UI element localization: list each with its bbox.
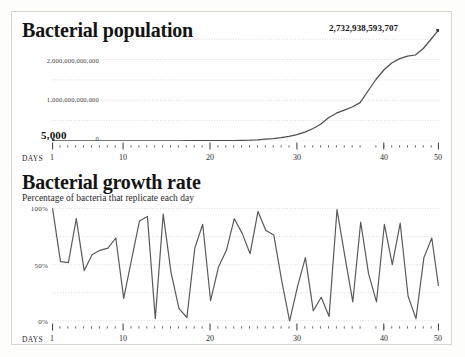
chart-1-xtick-4: 40 [380,153,388,162]
chart-2-xtick-3: 30 [293,334,301,343]
chart-bacterial-population: Bacterial population 2,000,000,000,000 1… [11,11,452,171]
chart-1-svg [52,29,439,141]
chart-2-ytick-1: 50% [11,262,48,270]
chart-1-start-callout: 5,000 [41,129,67,141]
chart-2-title: Bacterial growth rate [22,172,201,192]
chart-1-plot-area [52,29,439,141]
chart-1-minor-ticks [60,145,431,147]
chart-1-xtick-0: 1 [50,153,54,162]
chart-1-end-marker [436,29,439,32]
chart-2-plot-area [52,208,439,322]
chart-2-gridlines [52,209,439,321]
chart-1-major-ticks [53,143,439,150]
chart-2-major-ticks [53,324,439,331]
chart-2-subtitle: Percentage of bacteria that replicate ea… [22,194,194,204]
chart-1-x-axis-svg [52,141,439,152]
chart-2-xtick-4: 40 [380,334,388,343]
chart-2-minor-ticks [60,326,431,328]
chart-2-axis-name: DAYS [22,335,43,344]
chart-2-xtick-1: 10 [119,334,127,343]
chart-1-xtick-2: 20 [206,153,214,162]
chart-bacterial-growth-rate: Bacterial growth rate Percentage of bact… [11,167,452,345]
chart-2-x-axis [52,322,439,333]
infographic-page: Bacterial population 2,000,000,000,000 1… [0,0,465,357]
chart-1-gridlines [52,39,439,141]
chart-2-xtick-0: 1 [50,334,54,343]
chart-1-xtick-1: 10 [119,153,127,162]
chart-1-axis-name: DAYS [22,154,43,163]
chart-1-xtick-5: 50 [434,153,442,162]
chart-2-svg [52,208,439,322]
chart-2-ytick-2: 0% [11,318,48,326]
chart-2-data-line [53,209,439,321]
chart-2-ytick-0: 100% [11,205,48,213]
chart-2-x-axis-svg [52,322,439,333]
chart-2-xtick-2: 20 [206,334,214,343]
chart-1-data-line [52,30,439,141]
chart-1-end-callout: 2,732,938,593,707 [329,23,398,33]
chart-2-xtick-5: 50 [434,334,442,343]
chart-1-xtick-3: 30 [293,153,301,162]
chart-1-x-axis [52,141,439,152]
